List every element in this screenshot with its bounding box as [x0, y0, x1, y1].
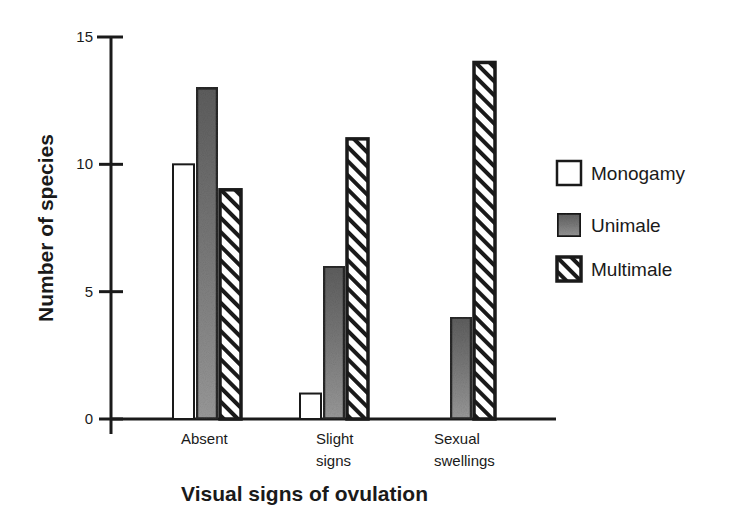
y-tick-label: 10 [76, 155, 93, 172]
legend-item-monogamy: Monogamy [557, 161, 685, 185]
y-axis: 051015 [76, 28, 123, 434]
bar-multimale-slight-signs [347, 139, 368, 419]
bar-multimale-absent [220, 190, 241, 419]
legend-label: Multimale [591, 259, 672, 280]
x-axis-title: Visual signs of ovulation [181, 482, 428, 505]
bar-chart: 051015 AbsentSlightsignsSexualswellings … [0, 0, 732, 524]
legend-item-unimale: Unimale [557, 213, 661, 237]
bar-unimale-sexual-swellings [451, 317, 472, 419]
y-tick-label: 5 [85, 283, 93, 300]
legend: MonogamyUnimaleMultimale [557, 161, 685, 281]
legend-label: Monogamy [591, 163, 685, 184]
legend-swatch-multimale [557, 257, 581, 281]
y-axis-title: Number of species [34, 134, 57, 322]
bar-unimale-absent [197, 88, 218, 419]
bar-unimale-slight-signs [324, 266, 345, 419]
bar-multimale-sexual-swellings [474, 62, 495, 419]
bar-monogamy-absent [173, 164, 194, 419]
legend-item-multimale: Multimale [557, 257, 672, 281]
category-label: Absent [181, 430, 229, 447]
category-label: Sexualswellings [434, 430, 495, 469]
legend-swatch-monogamy [557, 161, 581, 185]
y-tick-label: 15 [76, 28, 93, 45]
category-labels: AbsentSlightsignsSexualswellings [181, 430, 495, 469]
category-label: Slightsigns [316, 430, 354, 469]
bar-monogamy-slight-signs [300, 394, 321, 419]
legend-label: Unimale [591, 215, 661, 236]
legend-swatch-unimale [557, 213, 581, 237]
y-tick-label: 0 [85, 410, 93, 427]
bars [173, 62, 495, 419]
